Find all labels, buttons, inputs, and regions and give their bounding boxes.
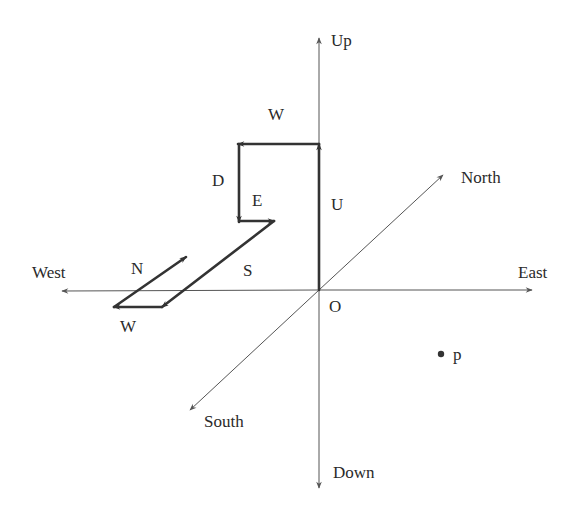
segment-label-s: S (243, 261, 252, 280)
labels: UpDownEastWestNorthSouthOUWDESWNp (32, 31, 548, 482)
axis-label-west: West (32, 263, 66, 282)
axis-north (319, 175, 443, 290)
axis-label-east: East (518, 263, 548, 282)
axis-west (62, 290, 319, 291)
segment-label-n: N (131, 259, 143, 278)
path-segment-n (114, 257, 186, 307)
travel-path (114, 144, 444, 357)
axis-south (190, 290, 319, 410)
axis-label-up: Up (331, 31, 352, 50)
axis-label-south: South (204, 412, 244, 431)
point-p-dot (438, 351, 444, 357)
axis-label-north: North (461, 168, 501, 187)
segment-label-e: E (252, 191, 262, 210)
point-p-label: p (453, 345, 462, 364)
segment-label-d: D (212, 171, 224, 190)
origin-label: O (329, 297, 341, 316)
segment-label-w: W (120, 317, 137, 336)
path-segment-s (162, 221, 274, 307)
axis-label-down: Down (333, 463, 375, 482)
segment-label-u: U (331, 195, 343, 214)
direction-diagram: UpDownEastWestNorthSouthOUWDESWNp (0, 0, 579, 507)
segment-label-w: W (268, 105, 285, 124)
